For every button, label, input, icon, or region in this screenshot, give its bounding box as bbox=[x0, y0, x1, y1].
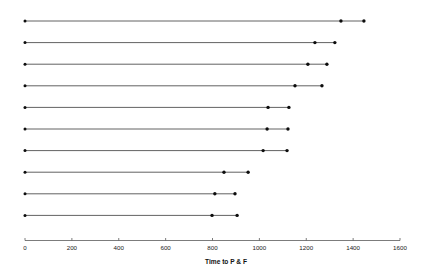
interval-row bbox=[24, 171, 250, 174]
interval-row bbox=[24, 192, 237, 195]
x-axis-tick-label: 1000 bbox=[252, 244, 266, 251]
interval-row bbox=[24, 149, 289, 152]
data-point-end bbox=[285, 149, 288, 152]
interval-row bbox=[24, 127, 290, 130]
series-group bbox=[24, 19, 366, 217]
x-axis-tick-label: 0 bbox=[23, 244, 27, 251]
data-point-end bbox=[246, 171, 249, 174]
chart-plot-area: 02004006008001000120014001600 Time to P … bbox=[0, 0, 427, 277]
data-point-start bbox=[24, 41, 27, 44]
data-point-start bbox=[24, 106, 27, 109]
x-axis-tick-label: 1600 bbox=[393, 244, 407, 251]
x-axis-tick-labels: 02004006008001000120014001600 bbox=[23, 244, 407, 251]
data-point-start bbox=[24, 192, 27, 195]
data-point-mid bbox=[261, 149, 264, 152]
data-point-start bbox=[24, 63, 27, 66]
data-point-mid bbox=[293, 84, 296, 87]
x-axis bbox=[25, 238, 400, 241]
x-axis-title: Time to P & F bbox=[205, 258, 247, 265]
data-point-mid bbox=[313, 41, 316, 44]
data-point-end bbox=[286, 127, 289, 130]
data-point-end bbox=[362, 19, 365, 22]
interval-row bbox=[24, 62, 329, 65]
data-point-mid bbox=[306, 62, 309, 65]
data-point-end bbox=[287, 106, 290, 109]
interval-row bbox=[24, 84, 324, 87]
data-point-mid bbox=[210, 214, 213, 217]
data-point-mid bbox=[222, 171, 225, 174]
data-point-start bbox=[24, 20, 27, 23]
data-point-start bbox=[24, 214, 27, 217]
data-point-start bbox=[24, 84, 27, 87]
x-axis-tick-label: 600 bbox=[160, 244, 171, 251]
data-point-end bbox=[333, 41, 336, 44]
chart-container: 02004006008001000120014001600 Time to P … bbox=[0, 0, 427, 277]
data-point-end bbox=[235, 214, 238, 217]
interval-row bbox=[24, 106, 291, 109]
data-point-end bbox=[233, 192, 236, 195]
data-point-mid bbox=[339, 19, 342, 22]
x-axis-tick-label: 400 bbox=[114, 244, 125, 251]
data-point-mid bbox=[265, 127, 268, 130]
data-point-mid bbox=[266, 106, 269, 109]
interval-row bbox=[24, 19, 366, 22]
x-axis-tick-label: 1400 bbox=[346, 244, 360, 251]
data-point-start bbox=[24, 171, 27, 174]
data-point-end bbox=[325, 62, 328, 65]
data-point-start bbox=[24, 128, 27, 131]
data-point-end bbox=[320, 84, 323, 87]
interval-row bbox=[24, 214, 239, 217]
x-axis-tick-label: 800 bbox=[207, 244, 218, 251]
data-point-start bbox=[24, 149, 27, 152]
data-point-mid bbox=[213, 192, 216, 195]
interval-row bbox=[24, 41, 337, 44]
x-axis-tick-label: 200 bbox=[67, 244, 78, 251]
x-axis-tick-label: 1200 bbox=[299, 244, 313, 251]
